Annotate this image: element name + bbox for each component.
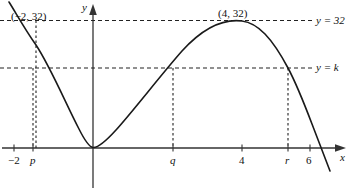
point-label-minus2-32: (−2, 32)	[11, 11, 47, 22]
cubic-curve	[9, 2, 330, 171]
x-tick-label-p: p	[30, 155, 36, 166]
x-axis-label: x	[340, 152, 345, 163]
x-axis	[2, 144, 346, 152]
line-label-y-equals-k: y = k	[316, 62, 339, 73]
graph-canvas	[0, 0, 356, 191]
x-tick-label-6: 6	[306, 155, 312, 166]
y-axis	[89, 4, 97, 188]
x-tick-label-minus2: −2	[8, 155, 20, 166]
point-label-4-32: (4, 32)	[218, 8, 247, 19]
line-label-y-equals-32: y = 32	[316, 15, 345, 26]
y-axis-label: y	[82, 2, 87, 13]
x-tick-label-r: r	[285, 155, 289, 166]
graph-figure: y x (−2, 32) (4, 32) y = 32 y = k −2 p q…	[0, 0, 356, 191]
x-tick-label-4: 4	[239, 155, 245, 166]
x-tick-label-q: q	[170, 155, 176, 166]
